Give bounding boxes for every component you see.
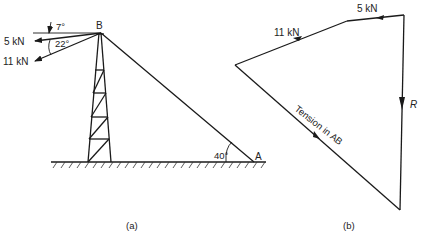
- angle-22-label: 22°: [55, 38, 70, 49]
- angle-arc-7: [49, 22, 51, 33]
- point-b-label: B: [96, 20, 103, 31]
- angle-7-label: 7°: [56, 21, 65, 32]
- angle-40-label: 40°: [214, 150, 229, 161]
- resultant-label: R: [410, 99, 417, 110]
- polygon-11kn-label: 11 kN: [274, 27, 299, 38]
- figure-a: B A 7° 22° 40° 5 kN 11 kN (a): [3, 20, 266, 231]
- polygon-5kn-label: 5 kN: [357, 3, 378, 14]
- ground-hatching: [53, 162, 265, 168]
- arrowhead-tension: [313, 131, 320, 139]
- angle-arc-22: [49, 40, 51, 55]
- caption-a: (a): [126, 220, 138, 231]
- polygon-side-resultant: [400, 15, 404, 210]
- figure-b-force-polygon: 5 kN 11 kN R Tension in AB (b): [235, 3, 417, 231]
- point-a-label: A: [255, 151, 262, 162]
- caption-b: (b): [343, 220, 355, 231]
- force-5kn-label: 5 kN: [4, 36, 25, 47]
- diagram-canvas: B A 7° 22° 40° 5 kN 11 kN (a) 5 kN 11 kN…: [0, 0, 421, 235]
- force-11kn-label: 11 kN: [3, 56, 28, 67]
- tension-label: Tension in AB: [293, 103, 345, 147]
- lattice-tower: [88, 33, 111, 162]
- arrowhead-resultant: [399, 97, 405, 110]
- polygon-side-5kn: [347, 15, 404, 21]
